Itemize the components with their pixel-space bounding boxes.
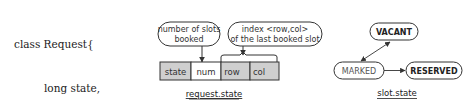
request-state-diagram: number of slots booked index <row,col> o… — [158, 22, 322, 99]
state-vacant-label: VACANT — [376, 28, 413, 37]
field-state: state — [165, 67, 187, 77]
state-reserved: RESERVED — [406, 62, 462, 79]
callout-num-slots-line2: booked — [174, 35, 203, 44]
request-state-caption: request.state — [186, 89, 243, 99]
callout-num-slots: number of slots booked — [158, 22, 221, 62]
state-vacant: VACANT — [370, 23, 418, 40]
field-col: col — [253, 67, 265, 77]
field-row: row — [224, 67, 240, 77]
transition-marked-vacant — [361, 42, 390, 61]
state-diagrams: number of slots booked index <row,col> o… — [0, 0, 471, 104]
request-state-fields: state num row col — [160, 62, 279, 80]
slot-state-caption: slot.state — [377, 88, 417, 98]
callout-last-index-line1: index <row,col> — [242, 25, 308, 34]
field-num: num — [196, 67, 215, 77]
callout-last-index: index <row,col> of the last booked slot — [221, 22, 322, 62]
state-marked-label: MARKED — [342, 67, 376, 76]
slot-state-diagram: VACANT MARKED RESERVED slot.state — [334, 23, 462, 99]
state-marked: MARKED — [334, 62, 384, 79]
callout-num-slots-line1: number of slots — [158, 25, 221, 34]
state-reserved-label: RESERVED — [410, 67, 458, 76]
callout-last-index-line2: of the last booked slot — [230, 35, 319, 44]
